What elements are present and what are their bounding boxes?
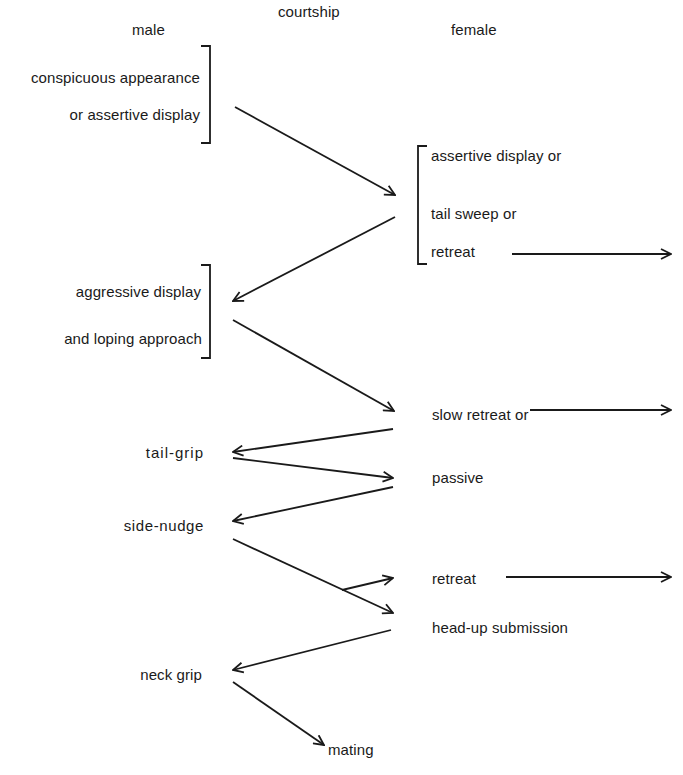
arrow-m4-to-f4 xyxy=(342,578,393,590)
courtship-diagram: courtship male female conspicuous appear… xyxy=(0,0,683,775)
arrow-m4-to-f5 xyxy=(233,539,393,613)
arrow-f2-to-m3 xyxy=(233,429,393,452)
transition-arrows xyxy=(0,0,683,775)
arrow-m1-to-f1 xyxy=(235,107,395,195)
arrow-f1-to-m2 xyxy=(233,217,395,301)
arrow-m3-to-f3 xyxy=(233,458,393,478)
arrow-m2-to-f2 xyxy=(233,320,394,411)
bracket-male-1 xyxy=(201,46,210,143)
arrow-m5-to-mating xyxy=(233,682,324,745)
bracket-female-1 xyxy=(418,146,427,264)
arrow-f3-to-m4 xyxy=(233,487,393,521)
arrow-f5-to-m5 xyxy=(233,630,391,670)
bracket-male-2 xyxy=(201,265,210,358)
